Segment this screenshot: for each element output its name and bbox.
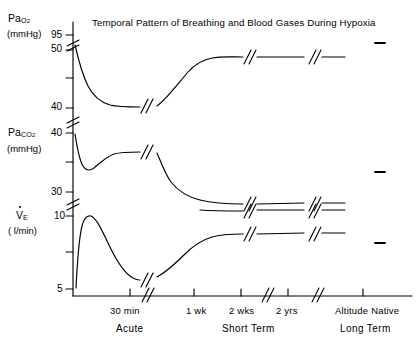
ve-curve-plateau-2 [257, 233, 304, 234]
paco2-curve-break-3 [309, 197, 321, 211]
pao2-curve-after-break [157, 57, 243, 106]
ve-curve-break-3 [309, 227, 321, 241]
paco2-curve-after-break [157, 153, 243, 204]
pao2-curve-break-1 [141, 99, 153, 113]
paco2-curve [75, 134, 140, 170]
ve-curve-after-break [157, 234, 243, 277]
ve-curve-break-1 [141, 273, 153, 287]
paco2-lower-break-2 [244, 204, 256, 218]
paco2-curve-break-2 [244, 197, 256, 211]
figure-container: PaO2 (mmHg) PaCO2 (mmHg) VE ( l/min) 95 … [0, 0, 418, 342]
paco2-curve-break-1 [141, 145, 153, 159]
ve-curve [76, 216, 140, 288]
paco2-curve-plateau-2 [257, 203, 304, 204]
xaxis-break-2 [262, 288, 274, 302]
xaxis-break-3 [312, 288, 324, 302]
paco2-lower-break-3 [309, 204, 321, 218]
paco2-curve-lower [200, 210, 243, 211]
pao2-curve-break-3 [309, 50, 321, 64]
pao2-curve-break-2 [244, 50, 256, 64]
xaxis-break-1 [142, 288, 154, 302]
ve-curve-break-2 [244, 227, 256, 241]
pao2-curve [75, 45, 140, 107]
plot-svg [0, 0, 418, 342]
